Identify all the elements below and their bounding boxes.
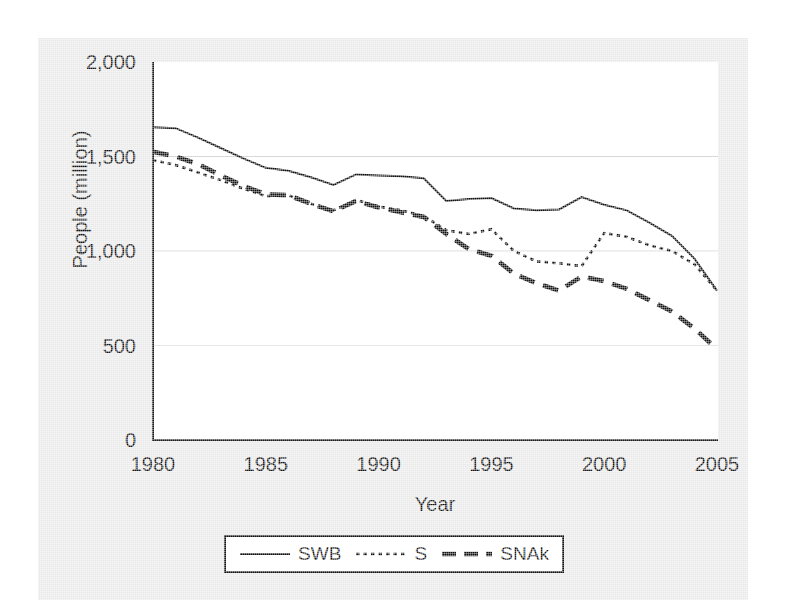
- data-series-layer: [153, 127, 717, 349]
- legend-label: SWB: [298, 543, 341, 565]
- solid-line-key: [239, 547, 291, 561]
- legend-label: SNAk: [500, 543, 549, 565]
- legend-item: SNAk: [441, 543, 549, 565]
- x-tick-label: 1985: [206, 454, 326, 474]
- x-tick-label: 2000: [544, 454, 664, 474]
- plot-area: [152, 62, 718, 441]
- x-tick-label: 1995: [431, 454, 551, 474]
- series-line-swb: [153, 127, 717, 290]
- y-tick-label: 0: [36, 430, 136, 450]
- chart-legend: SWB S SNAk: [224, 535, 564, 573]
- y-tick-label: 500: [36, 336, 136, 356]
- dotted-line-key: [355, 547, 407, 561]
- x-tick-label: 1980: [93, 454, 213, 474]
- y-axis-label: People (million): [69, 80, 92, 320]
- legend-label: S: [414, 543, 427, 565]
- x-axis-label: Year: [152, 493, 718, 516]
- x-tick-label: 2005: [657, 454, 777, 474]
- figure-panel: 05001,0001,5002,000 19801985199019952000…: [38, 38, 748, 600]
- gridlines: [153, 157, 718, 346]
- legend-item: S: [355, 543, 427, 565]
- x-tick-label: 1990: [319, 454, 439, 474]
- dashed-line-key: [441, 547, 493, 561]
- legend-item: SWB: [239, 543, 341, 565]
- chart-canvas: [152, 62, 718, 441]
- y-tick-label: 2,000: [36, 52, 136, 72]
